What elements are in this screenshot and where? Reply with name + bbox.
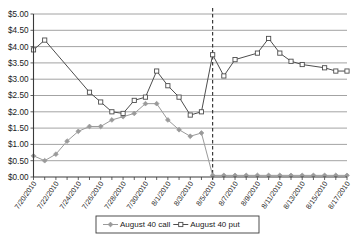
square-marker [155, 69, 159, 73]
square-marker [99, 100, 103, 104]
square-marker [166, 84, 170, 88]
y-tick-label: $5.00 [8, 10, 29, 19]
square-marker [255, 51, 259, 55]
square-marker [179, 222, 183, 226]
y-tick-label: $3.00 [8, 75, 29, 84]
square-marker [143, 95, 147, 99]
square-marker [87, 90, 91, 94]
square-marker [289, 59, 293, 63]
square-marker [43, 38, 47, 42]
square-marker [211, 53, 215, 57]
square-marker [132, 98, 136, 102]
y-tick-label: $2.50 [8, 91, 29, 100]
square-marker [222, 74, 226, 78]
square-marker [300, 62, 304, 66]
square-marker [323, 66, 327, 70]
y-tick-label: $4.50 [8, 26, 29, 35]
y-tick-label: $1.50 [8, 124, 29, 133]
y-tick-label: $2.00 [8, 108, 29, 117]
y-tick-label: $1.00 [8, 140, 29, 149]
square-marker [121, 111, 125, 115]
square-marker [188, 113, 192, 117]
y-tick-label: $3.50 [8, 59, 29, 68]
y-tick-label: $4.00 [8, 43, 29, 52]
square-marker [177, 95, 181, 99]
square-marker [233, 58, 237, 62]
y-tick-label: $0.50 [8, 157, 29, 166]
chart-container: $0.00$0.50$1.00$1.50$2.00$2.50$3.00$3.50… [0, 0, 353, 237]
square-marker [199, 110, 203, 114]
y-tick-label: $0.00 [8, 173, 29, 182]
square-marker [278, 51, 282, 55]
line-chart: $0.00$0.50$1.00$1.50$2.00$2.50$3.00$3.50… [0, 0, 353, 237]
square-marker [267, 36, 271, 40]
square-marker [110, 110, 114, 114]
chart-legend: August 40 callAugust 40 put [96, 216, 259, 233]
legend-item-label[interactable]: August 40 call [120, 220, 170, 229]
square-marker [334, 69, 338, 73]
square-marker [345, 69, 349, 73]
legend-item-label[interactable]: August 40 put [190, 220, 240, 229]
